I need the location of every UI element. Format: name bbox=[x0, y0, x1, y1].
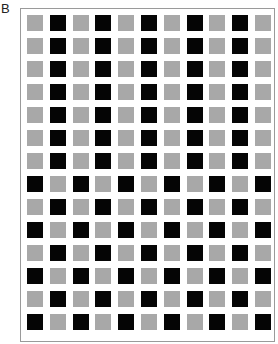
gray-square bbox=[118, 199, 134, 215]
gray-square bbox=[141, 268, 157, 284]
gray-square bbox=[164, 84, 180, 100]
black-square bbox=[187, 153, 203, 169]
gray-square bbox=[209, 84, 225, 100]
black-square bbox=[232, 130, 248, 146]
gray-square bbox=[118, 291, 134, 307]
black-square bbox=[50, 38, 66, 54]
gray-square bbox=[209, 107, 225, 123]
gray-square bbox=[141, 222, 157, 238]
black-square bbox=[95, 130, 111, 146]
gray-square bbox=[255, 61, 271, 77]
gray-square bbox=[73, 84, 89, 100]
gray-square bbox=[232, 268, 248, 284]
black-square bbox=[27, 268, 43, 284]
black-square bbox=[95, 61, 111, 77]
black-square bbox=[187, 84, 203, 100]
gray-square bbox=[209, 153, 225, 169]
gray-square bbox=[27, 84, 43, 100]
black-square bbox=[164, 268, 180, 284]
gray-square bbox=[141, 176, 157, 192]
black-square bbox=[95, 84, 111, 100]
black-square bbox=[232, 84, 248, 100]
gray-square bbox=[27, 130, 43, 146]
black-square bbox=[209, 222, 225, 238]
black-square bbox=[27, 222, 43, 238]
black-square bbox=[50, 291, 66, 307]
black-square bbox=[95, 15, 111, 31]
black-square bbox=[50, 61, 66, 77]
black-square bbox=[118, 176, 134, 192]
black-square bbox=[73, 268, 89, 284]
gray-square bbox=[255, 107, 271, 123]
gray-square bbox=[209, 199, 225, 215]
gray-square bbox=[164, 61, 180, 77]
gray-square bbox=[232, 222, 248, 238]
gray-square bbox=[73, 61, 89, 77]
black-square bbox=[118, 314, 134, 330]
black-square bbox=[141, 153, 157, 169]
gray-square bbox=[255, 38, 271, 54]
black-square bbox=[232, 199, 248, 215]
gray-square bbox=[73, 199, 89, 215]
gray-square bbox=[209, 130, 225, 146]
gray-square bbox=[255, 291, 271, 307]
black-square bbox=[164, 176, 180, 192]
gray-square bbox=[27, 199, 43, 215]
black-square bbox=[187, 15, 203, 31]
gray-square bbox=[164, 291, 180, 307]
black-square bbox=[255, 176, 271, 192]
gray-square bbox=[50, 222, 66, 238]
black-square bbox=[232, 153, 248, 169]
gray-square bbox=[95, 268, 111, 284]
gray-square bbox=[255, 84, 271, 100]
gray-square bbox=[27, 245, 43, 261]
black-square bbox=[50, 199, 66, 215]
gray-square bbox=[73, 15, 89, 31]
black-square bbox=[50, 153, 66, 169]
gray-square bbox=[27, 291, 43, 307]
gray-square bbox=[209, 245, 225, 261]
black-square bbox=[141, 245, 157, 261]
gray-square bbox=[118, 84, 134, 100]
gray-square bbox=[73, 107, 89, 123]
gray-square bbox=[255, 15, 271, 31]
stimulus-frame bbox=[20, 8, 275, 342]
gray-square bbox=[255, 130, 271, 146]
gray-square bbox=[118, 15, 134, 31]
gray-square bbox=[164, 38, 180, 54]
gray-square bbox=[73, 38, 89, 54]
black-square bbox=[141, 61, 157, 77]
gray-square bbox=[73, 130, 89, 146]
gray-square bbox=[187, 222, 203, 238]
gray-square bbox=[118, 107, 134, 123]
black-square bbox=[118, 268, 134, 284]
gray-square bbox=[27, 107, 43, 123]
gray-square bbox=[27, 153, 43, 169]
gray-square bbox=[187, 268, 203, 284]
gray-square bbox=[27, 61, 43, 77]
black-square bbox=[95, 153, 111, 169]
panel-label: B bbox=[1, 1, 10, 16]
black-square bbox=[187, 61, 203, 77]
gray-square bbox=[73, 291, 89, 307]
black-square bbox=[187, 38, 203, 54]
gray-square bbox=[95, 314, 111, 330]
gray-square bbox=[209, 38, 225, 54]
gray-square bbox=[164, 153, 180, 169]
gray-square bbox=[187, 314, 203, 330]
black-square bbox=[50, 107, 66, 123]
black-square bbox=[232, 245, 248, 261]
black-square bbox=[95, 38, 111, 54]
black-square bbox=[187, 107, 203, 123]
black-square bbox=[27, 176, 43, 192]
black-square bbox=[255, 268, 271, 284]
black-square bbox=[232, 15, 248, 31]
gray-square bbox=[95, 176, 111, 192]
gray-square bbox=[164, 130, 180, 146]
gray-square bbox=[232, 176, 248, 192]
gray-square bbox=[118, 153, 134, 169]
black-square bbox=[95, 291, 111, 307]
gray-square bbox=[50, 176, 66, 192]
black-square bbox=[73, 314, 89, 330]
gray-square bbox=[27, 15, 43, 31]
